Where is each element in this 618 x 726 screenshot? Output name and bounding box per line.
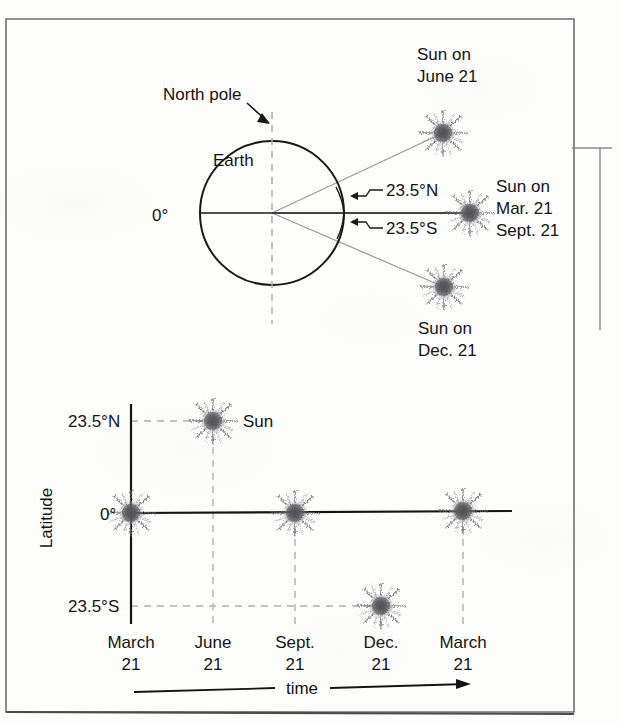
y-tick-label-0: 0° xyxy=(100,505,116,524)
sun-equinox-glyph xyxy=(446,190,494,236)
sun-marker-callout: Sun xyxy=(243,412,273,431)
x-tick-sept-line1: Sept. xyxy=(275,633,315,652)
x-tick-march2-line1: March xyxy=(439,633,486,652)
angle-label-north: 23.5°N xyxy=(386,181,438,200)
north-pole-arrow xyxy=(247,103,270,124)
sun-june-label-line2: June 21 xyxy=(417,67,478,86)
x-tick-dec-line1: Dec. xyxy=(364,633,399,652)
sun-equinox-label-line2: Mar. 21 xyxy=(496,199,553,218)
x-tick-march2-line2: 21 xyxy=(454,655,473,674)
top-diagram: North pole Earth 0° 23.5°N 23.5°S Sun on… xyxy=(152,45,559,360)
angle-leader-north xyxy=(350,190,383,200)
data-point-june-21 xyxy=(189,398,237,444)
data-point-dec-21 xyxy=(357,583,405,629)
x-axis-title: time xyxy=(286,679,318,698)
x-tick-march-line1: March xyxy=(107,633,154,652)
earth-label: Earth xyxy=(213,151,254,170)
y-tick-label-23s: 23.5°S xyxy=(68,597,119,616)
equator-label: 0° xyxy=(152,206,168,225)
sun-equinox-label-line1: Sun on xyxy=(496,177,550,196)
x-tick-june-line2: 21 xyxy=(204,655,223,674)
sun-december-label-line1: Sun on xyxy=(418,319,472,338)
sun-ray-lines xyxy=(272,133,470,287)
x-tick-march-line2: 21 xyxy=(122,655,141,674)
y-tick-label-23n: 23.5°N xyxy=(68,412,120,431)
x-tick-june-line1: June xyxy=(195,633,232,652)
seasons-figure: North pole Earth 0° 23.5°N 23.5°S Sun on… xyxy=(0,0,618,726)
x-tick-sept-line2: 21 xyxy=(286,655,305,674)
data-point-sept-21 xyxy=(271,490,319,536)
sun-equinox-label-line3: Sept. 21 xyxy=(496,221,559,240)
north-pole-label: North pole xyxy=(163,85,241,104)
latitude-time-chart: 23.5°N 0° 23.5°S Latitude Sun March 21 J… xyxy=(37,398,512,698)
y-axis-title: Latitude xyxy=(37,488,56,549)
sun-june-label-line1: Sun on xyxy=(417,45,471,64)
angle-label-south: 23.5°S xyxy=(386,219,437,238)
angle-leader-south xyxy=(350,218,383,228)
sun-december-glyph xyxy=(420,264,468,310)
sun-june-glyph xyxy=(419,110,467,156)
x-tick-dec-line2: 21 xyxy=(372,655,391,674)
sun-december-label-line2: Dec. 21 xyxy=(418,341,477,360)
data-point-march-21-next xyxy=(439,488,487,534)
figure-page: North pole Earth 0° 23.5°N 23.5°S Sun on… xyxy=(0,0,618,726)
